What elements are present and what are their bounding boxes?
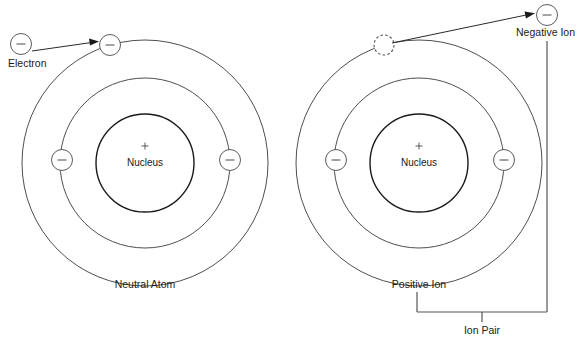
positive-ion-group: Nucleus Positive Ion <box>296 35 542 290</box>
negative-ion-label: Negative Ion <box>516 26 575 38</box>
electron-ejection-arrow-shaft <box>392 14 531 43</box>
negative-ion-group: Negative Ion <box>392 5 575 44</box>
electron-capture-arrow-head <box>89 39 99 46</box>
ion-pair-label: Ion Pair <box>464 324 501 336</box>
neutral-atom-inner-electron-left <box>52 150 73 171</box>
electron-vacancy-icon <box>374 35 394 55</box>
electron-ejection-arrow-head <box>525 12 536 19</box>
neutral-atom-group: Nucleus Neutral Atom <box>22 35 268 291</box>
neutral-atom-caption: Neutral Atom <box>115 278 176 290</box>
neutral-atom-inner-electron-right <box>220 150 241 171</box>
atomic-ionization-diagram: Nucleus Neutral Atom Electron <box>0 0 581 337</box>
positive-ion-inner-electron-left <box>326 150 347 171</box>
electron-capture-arrow-shaft <box>32 42 95 51</box>
neutral-atom-outer-electron <box>100 35 121 56</box>
positive-ion-caption: Positive Ion <box>392 278 446 290</box>
ionization-figure-svg: Nucleus Neutral Atom Electron <box>0 0 581 337</box>
electron-label: Electron <box>8 57 47 69</box>
nucleus-label-right: Nucleus <box>401 157 437 168</box>
nucleus-label-left: Nucleus <box>127 157 163 168</box>
positive-ion-inner-electron-right <box>494 150 515 171</box>
free-electron-left-group: Electron <box>8 34 99 70</box>
